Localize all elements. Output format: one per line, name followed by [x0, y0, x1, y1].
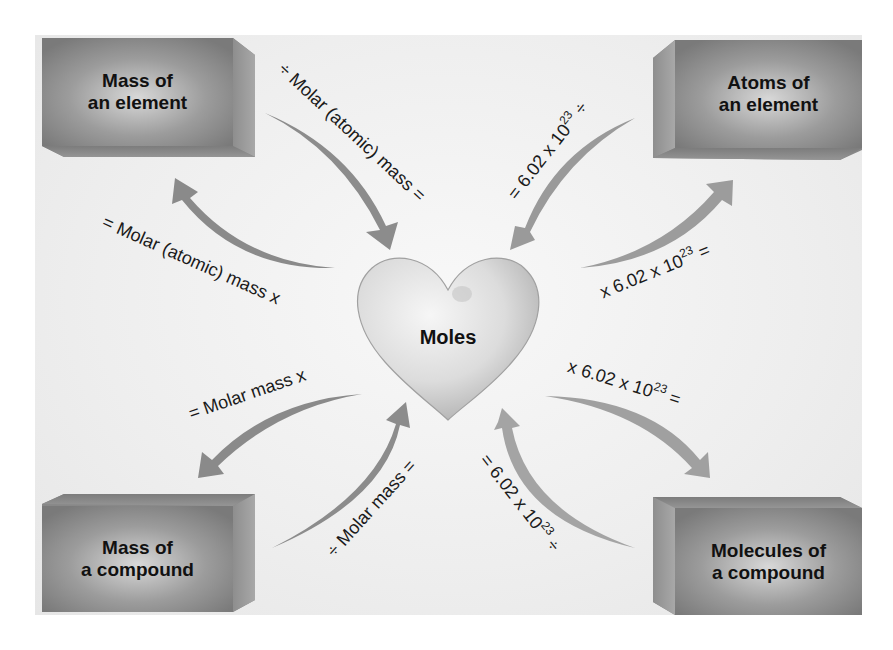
- arrow-moles-to-br: [545, 396, 710, 478]
- box-line1: Mass of: [81, 537, 194, 559]
- box-line2: an element: [719, 94, 818, 116]
- moles-label: Moles: [398, 326, 498, 349]
- box-line2: a compound: [711, 562, 826, 584]
- box-line1: Atoms of: [719, 72, 818, 94]
- box-label-atoms-of-element: Atoms ofan element: [675, 40, 862, 148]
- arrow-tl-to-moles: [265, 113, 398, 250]
- box-line1: Mass of: [88, 70, 187, 92]
- box-label-mass-of-compound: Mass ofa compound: [42, 506, 233, 612]
- box-label-molecules-of-compound: Molecules ofa compound: [675, 508, 862, 615]
- box-label-mass-of-element: Mass ofan element: [42, 38, 233, 146]
- box-line2: a compound: [81, 559, 194, 581]
- box-line1: Molecules of: [711, 540, 826, 562]
- box-line2: an element: [88, 92, 187, 114]
